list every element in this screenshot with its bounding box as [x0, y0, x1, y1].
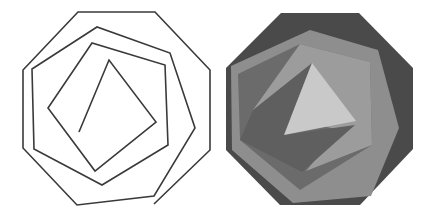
spiral-line-drawing-panel [0, 0, 216, 223]
shaded-polygon-rendering [216, 0, 432, 223]
shaded-rendering-panel [216, 0, 432, 223]
spiral-line-drawing [0, 0, 216, 223]
spiral-polyline [23, 12, 210, 205]
